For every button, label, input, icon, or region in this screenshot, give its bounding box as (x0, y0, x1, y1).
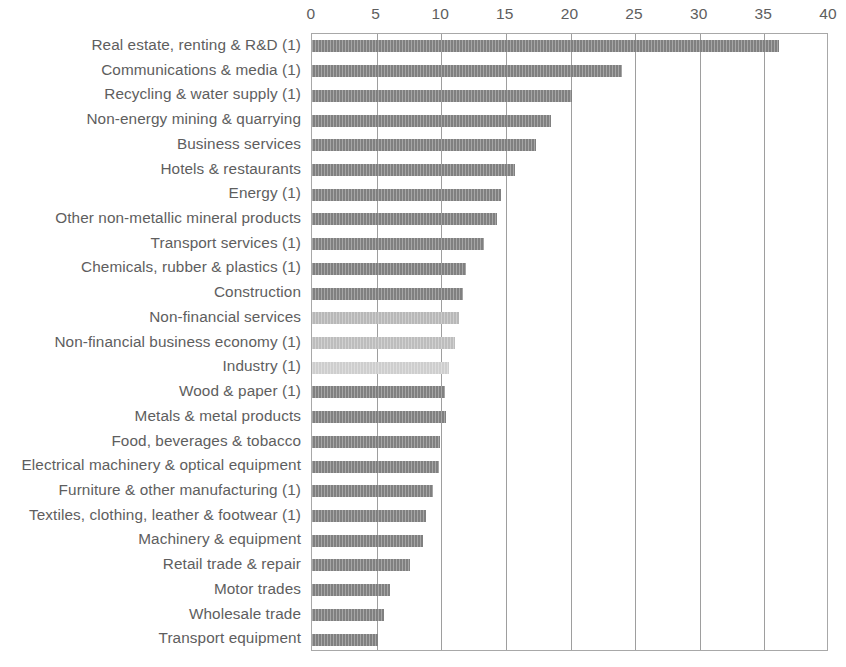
bar[interactable] (312, 559, 410, 571)
category-label: Food, beverages & tobacco (111, 429, 301, 454)
bar[interactable] (312, 485, 433, 497)
bar[interactable] (312, 436, 440, 448)
bar-row[interactable] (312, 232, 829, 257)
bar[interactable] (312, 362, 449, 374)
bar-row[interactable] (312, 627, 829, 652)
bar[interactable] (312, 535, 423, 547)
plot-area (311, 33, 828, 651)
bar-row[interactable] (312, 504, 829, 529)
x-tick-label-35: 35 (755, 5, 773, 23)
bar[interactable] (312, 115, 551, 127)
category-label: Metals & metal products (135, 404, 301, 429)
bar[interactable] (312, 213, 497, 225)
horizontal-bar-chart: 0510152025303540 Real estate, renting & … (0, 0, 846, 667)
bar-row[interactable] (312, 108, 829, 133)
category-label: Motor trades (214, 577, 301, 602)
bar-row[interactable] (312, 34, 829, 59)
category-label: Hotels & restaurants (160, 157, 301, 182)
bar[interactable] (312, 238, 484, 250)
category-label: Other non-metallic mineral products (55, 206, 301, 231)
bar[interactable] (312, 189, 501, 201)
category-label: Wholesale trade (189, 602, 301, 627)
bar-row[interactable] (312, 281, 829, 306)
x-tick-label-10: 10 (431, 5, 449, 23)
category-label: Transport services (1) (151, 231, 301, 256)
bar-row[interactable] (312, 405, 829, 430)
bar[interactable] (312, 164, 515, 176)
bar-row[interactable] (312, 306, 829, 331)
x-axis-tick-labels: 0510152025303540 (311, 0, 828, 30)
category-label: Recycling & water supply (1) (104, 82, 301, 107)
bar[interactable] (312, 139, 536, 151)
bar-row[interactable] (312, 83, 829, 108)
category-label: Industry (1) (222, 354, 301, 379)
category-label: Wood & paper (1) (179, 379, 301, 404)
bar[interactable] (312, 386, 445, 398)
bar-row[interactable] (312, 59, 829, 84)
bar-row[interactable] (312, 479, 829, 504)
bar-row[interactable] (312, 528, 829, 553)
category-label: Textiles, clothing, leather & footwear (… (29, 503, 301, 528)
bar-row[interactable] (312, 603, 829, 628)
bar[interactable] (312, 411, 446, 423)
x-tick-label-20: 20 (561, 5, 579, 23)
category-label: Non-financial services (149, 305, 301, 330)
bar[interactable] (312, 584, 390, 596)
bar-row[interactable] (312, 454, 829, 479)
bar-series (312, 34, 827, 650)
category-label: Retail trade & repair (163, 552, 301, 577)
category-axis-labels: Real estate, renting & R&D (1)Communicat… (0, 33, 307, 651)
bar[interactable] (312, 461, 439, 473)
x-tick-label-15: 15 (496, 5, 514, 23)
bar[interactable] (312, 337, 455, 349)
bar-row[interactable] (312, 182, 829, 207)
category-label: Communications & media (1) (101, 58, 301, 83)
x-tick-label-5: 5 (371, 5, 380, 23)
x-tick-label-40: 40 (819, 5, 837, 23)
bar-row[interactable] (312, 331, 829, 356)
bar[interactable] (312, 263, 466, 275)
bar-row[interactable] (312, 430, 829, 455)
category-label: Machinery & equipment (138, 527, 301, 552)
bar[interactable] (312, 609, 384, 621)
x-tick-label-0: 0 (307, 5, 316, 23)
bar-row[interactable] (312, 207, 829, 232)
bar-row[interactable] (312, 578, 829, 603)
category-label: Business services (177, 132, 301, 157)
category-label: Furniture & other manufacturing (1) (59, 478, 301, 503)
bar[interactable] (312, 65, 622, 77)
bar[interactable] (312, 312, 459, 324)
category-label: Real estate, renting & R&D (1) (91, 33, 301, 58)
bar-row[interactable] (312, 256, 829, 281)
bar-row[interactable] (312, 133, 829, 158)
category-label: Chemicals, rubber & plastics (1) (81, 255, 301, 280)
category-label: Transport equipment (159, 626, 301, 651)
bar-row[interactable] (312, 158, 829, 183)
category-label: Energy (1) (229, 181, 301, 206)
category-label: Construction (214, 280, 301, 305)
category-label: Electrical machinery & optical equipment (22, 453, 301, 478)
x-tick-label-25: 25 (625, 5, 643, 23)
bar-row[interactable] (312, 355, 829, 380)
bar-row[interactable] (312, 553, 829, 578)
bar[interactable] (312, 510, 426, 522)
category-label: Non-financial business economy (1) (54, 330, 301, 355)
category-label: Non-energy mining & quarrying (86, 107, 301, 132)
bar[interactable] (312, 288, 463, 300)
bar[interactable] (312, 634, 378, 646)
bar[interactable] (312, 40, 779, 52)
bar[interactable] (312, 90, 572, 102)
bar-row[interactable] (312, 380, 829, 405)
x-tick-label-30: 30 (690, 5, 708, 23)
